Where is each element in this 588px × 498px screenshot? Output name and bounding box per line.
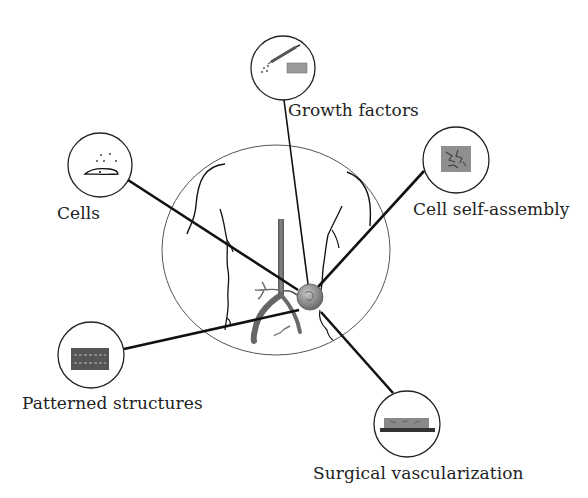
diagram-canvas	[0, 0, 588, 498]
label-surgical-vascularization: Surgical vascularization	[313, 463, 524, 483]
label-cell-self-assembly: Cell self-assembly	[413, 199, 570, 219]
line-cells	[128, 180, 298, 290]
torso-group	[162, 145, 390, 355]
connector-lines	[124, 100, 424, 393]
node-circle	[68, 133, 132, 197]
vessel-trunk	[278, 219, 284, 297]
torso-right-contour	[347, 172, 370, 226]
cell-nucleus-icon	[99, 171, 101, 173]
node-growth-factors	[251, 36, 315, 100]
implant-sphere	[297, 284, 323, 310]
torso-right-branch	[332, 230, 339, 248]
label-patterned-structures: Patterned structures	[22, 393, 203, 413]
patterned-channels-icon	[71, 348, 109, 370]
scaffold-icon	[287, 63, 307, 73]
line-patterned-structures	[124, 310, 299, 349]
node-surgical-vascularization	[374, 391, 440, 457]
label-growth-factors: Growth factors	[288, 100, 419, 120]
vessel-tree	[254, 219, 300, 341]
vessel-small-branch-lower	[274, 326, 290, 336]
label-cells: Cells	[57, 203, 100, 223]
node-patterned-structures	[58, 322, 124, 388]
line-cell-self-assembly	[318, 171, 424, 287]
torso-left-contour	[187, 164, 225, 234]
node-cell-self-assembly	[423, 127, 489, 193]
node-cells	[68, 133, 132, 197]
line-growth-factors	[284, 100, 308, 284]
torso-left-spine-line	[220, 209, 229, 330]
vessel-graft-icon	[380, 428, 435, 432]
vessel-connector	[284, 291, 297, 295]
network-scaffold-icon	[441, 146, 471, 172]
